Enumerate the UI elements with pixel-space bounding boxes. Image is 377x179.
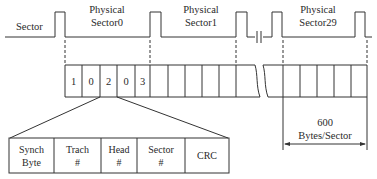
svg-text:Sector1: Sector1 xyxy=(185,17,217,28)
header-field-track: Trach # xyxy=(66,144,89,168)
physical-sector1-label: Physical Sector1 xyxy=(183,4,219,28)
svg-text:Sector29: Sector29 xyxy=(299,17,336,28)
svg-text:1: 1 xyxy=(71,76,76,87)
svg-text:#: # xyxy=(159,157,164,168)
svg-text:Sector0: Sector0 xyxy=(91,17,123,28)
svg-text:Trach: Trach xyxy=(66,144,89,155)
svg-text:Bytes/Sector: Bytes/Sector xyxy=(298,130,352,141)
capacitor-break-icon xyxy=(257,31,261,43)
svg-text:Byte: Byte xyxy=(22,157,41,168)
sector-size-dimension: 600 Bytes/Sector xyxy=(283,97,367,150)
expansion-lines xyxy=(10,97,228,138)
svg-text:600: 600 xyxy=(317,117,333,128)
physical-sector29-label: Physical Sector29 xyxy=(299,4,336,28)
arrow-left-icon xyxy=(284,142,290,146)
svg-text:0: 0 xyxy=(123,76,128,87)
svg-text:Head: Head xyxy=(108,144,129,155)
svg-text:Physical: Physical xyxy=(300,4,336,15)
svg-text:Physical: Physical xyxy=(183,4,219,15)
physical-sector0-label: Physical Sector0 xyxy=(89,4,125,28)
projection-lines xyxy=(65,40,367,65)
header-field-synch-byte: Synch Byte xyxy=(19,144,44,168)
svg-text:2: 2 xyxy=(106,76,111,87)
svg-text:3: 3 xyxy=(140,76,145,87)
svg-text:#: # xyxy=(75,157,80,168)
svg-text:CRC: CRC xyxy=(197,150,217,161)
header-field-sector: Sector # xyxy=(148,144,174,168)
svg-text:Physical: Physical xyxy=(89,4,125,15)
svg-text:Sector: Sector xyxy=(148,144,174,155)
svg-text:Synch: Synch xyxy=(19,144,44,155)
header-field-head: Head # xyxy=(108,144,129,168)
sector-left-label: Sector xyxy=(16,21,43,32)
header-field-crc: CRC xyxy=(197,150,217,161)
svg-text:0: 0 xyxy=(88,76,93,87)
arrow-right-icon xyxy=(360,142,366,146)
wavy-break-icon xyxy=(255,65,268,97)
sector-format-diagram: Sector Physical Sector0 Physical Sector1… xyxy=(0,0,377,179)
svg-text:#: # xyxy=(117,157,122,168)
